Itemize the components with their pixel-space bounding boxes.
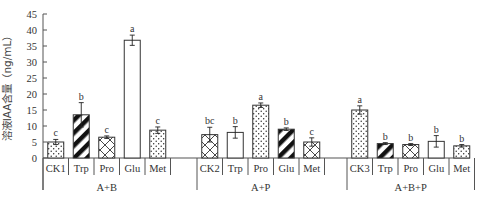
bar-A+B+P-Trp: b <box>377 131 393 158</box>
bars: cbcacbcbabcabbbb <box>48 23 470 158</box>
x-category-label: Trp <box>74 163 89 174</box>
x-group-label: A+B <box>96 182 117 193</box>
bar-A+B+P-Pro: b <box>403 132 419 158</box>
significance-letter: c <box>105 124 110 135</box>
significance-letter: b <box>408 132 413 143</box>
x-category-label: Trp <box>378 163 393 174</box>
significance-letter: c <box>54 127 59 138</box>
bar-A+B-Glu: a <box>124 23 140 158</box>
y-tick-label: 20 <box>27 89 38 100</box>
x-category-label: CK1 <box>46 163 66 174</box>
significance-letter: a <box>130 23 135 34</box>
significance-letter: b <box>284 116 289 127</box>
bar-A+P-Pro: a <box>253 91 269 158</box>
bar-chart: 溶液IAA含量（ng/mL） 051015202530354045 cbcacb… <box>0 0 480 210</box>
bar-A+B+P-CK3: a <box>352 94 368 158</box>
bar-A+P-Met: c <box>304 126 320 158</box>
y-axis-label: 溶液IAA含量（ng/mL） <box>1 31 13 142</box>
x-category-label: Met <box>453 163 470 174</box>
x-category-label: Pro <box>403 163 418 174</box>
significance-letter: bc <box>205 115 215 126</box>
significance-letter: a <box>358 94 363 105</box>
x-category-label: Met <box>303 163 320 174</box>
y-tick-label: 5 <box>32 137 37 148</box>
y-tick-label: 10 <box>27 121 38 132</box>
bar-A+B-Met: c <box>150 115 166 158</box>
bar-A+B-CK1: c <box>48 127 64 158</box>
significance-letter: b <box>233 115 238 126</box>
bar-A+P-CK2: bc <box>202 115 218 158</box>
y-tick-label: 45 <box>27 9 38 20</box>
x-category-label: CK2 <box>200 163 220 174</box>
y-tick-label: 30 <box>27 57 38 68</box>
x-category-label: Glu <box>278 163 295 174</box>
significance-letter: b <box>79 91 84 102</box>
significance-letter: b <box>459 133 464 144</box>
bar-A+B+P-Glu: b <box>428 124 444 158</box>
x-category-label: Trp <box>228 163 243 174</box>
y-tick-label: 40 <box>27 25 38 36</box>
x-category-label: Met <box>149 163 166 174</box>
bar-A+P-Glu: b <box>278 116 294 158</box>
x-group-label: A+B+P <box>395 182 427 193</box>
y-axis-title: 溶液IAA含量（ng/mL） <box>1 31 13 142</box>
x-category-label: Pro <box>253 163 268 174</box>
significance-letter: b <box>383 131 388 142</box>
x-category-label: Pro <box>99 163 114 174</box>
y-tick-label: 25 <box>27 73 38 84</box>
bar-A+B+P-Met: b <box>454 133 470 158</box>
significance-letter: b <box>434 124 439 135</box>
x-category-label: Glu <box>124 163 141 174</box>
y-tick-label: 15 <box>27 105 38 116</box>
x-category-label: Glu <box>428 163 445 174</box>
y-tick-label: 35 <box>27 41 38 52</box>
bar-A+B-Trp: b <box>73 91 89 158</box>
significance-letter: c <box>156 115 161 126</box>
x-axis-categories: CK1TrpProGluMetA+BCK2TrpProGluMetA+PCK3T… <box>43 158 475 193</box>
significance-letter: a <box>259 91 264 102</box>
y-tick-label: 0 <box>32 153 37 164</box>
x-category-label: CK3 <box>350 163 370 174</box>
bar-A+B-Pro: c <box>99 124 115 158</box>
significance-letter: c <box>310 126 315 137</box>
x-group-label: A+P <box>251 182 271 193</box>
bar-A+P-Trp: b <box>227 115 243 158</box>
